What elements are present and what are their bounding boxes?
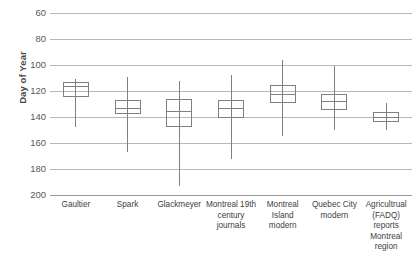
box-plot-6 <box>321 13 347 195</box>
whisker-line <box>179 81 180 186</box>
box-plot-7 <box>373 13 399 195</box>
x-axis-tick-labels: GaultierSparkGlackmeyerMontreal 19th cen… <box>50 200 412 269</box>
iqr-box <box>166 99 192 128</box>
box-plot-5 <box>270 13 296 195</box>
median-line <box>373 117 399 118</box>
y-tick-label-60: 60 <box>12 8 46 18</box>
median-line <box>218 108 244 109</box>
box-plot-chart: Day of Year 6080100120140160180200 Gault… <box>0 0 420 269</box>
gridline-200 <box>50 195 412 196</box>
y-tick-label-120: 120 <box>12 86 46 96</box>
x-tick-label-7: Agricultrual (FADQ) reports Montreal reg… <box>360 200 412 253</box>
box-plot-2 <box>115 13 141 195</box>
box-plot-4 <box>218 13 244 195</box>
x-tick-label-3: Glackmeyer <box>153 200 205 211</box>
x-tick-label-1: Gaultier <box>50 200 102 211</box>
plot-area <box>50 13 412 195</box>
y-tick-label-100: 100 <box>12 60 46 70</box>
median-line <box>321 101 347 102</box>
y-axis-tick-labels: 6080100120140160180200 <box>8 0 46 269</box>
iqr-box <box>218 100 244 118</box>
x-tick-label-6: Quebec City modern <box>309 200 361 221</box>
x-tick-label-4: Montreal 19th century journals <box>205 200 257 232</box>
median-line <box>115 108 141 109</box>
x-tick-label-5: Montreal Island modern <box>257 200 309 232</box>
median-line <box>166 111 192 112</box>
y-tick-label-180: 180 <box>12 164 46 174</box>
box-plot-3 <box>166 13 192 195</box>
y-tick-label-200: 200 <box>12 190 46 200</box>
y-tick-label-140: 140 <box>12 112 46 122</box>
box-plot-1 <box>63 13 89 195</box>
median-line <box>270 94 296 95</box>
iqr-box <box>63 82 89 98</box>
y-tick-label-80: 80 <box>12 34 46 44</box>
y-tick-label-160: 160 <box>12 138 46 148</box>
median-line <box>63 86 89 87</box>
x-tick-label-2: Spark <box>102 200 154 211</box>
